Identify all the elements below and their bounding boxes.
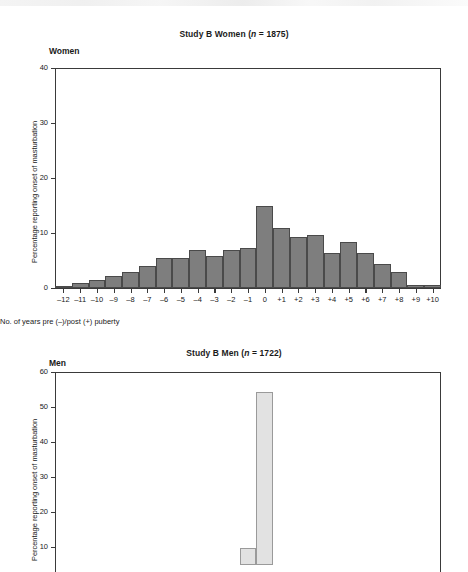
men-y-tick-label-40: 40 <box>27 437 48 446</box>
women-x-tick-label-22: +10 <box>422 295 444 304</box>
men-chart-title-main: Study B Men ( <box>186 348 244 358</box>
bar-women-20 <box>391 272 408 288</box>
women-x-tick-16 <box>332 289 333 293</box>
men-y-tick-50 <box>51 407 55 408</box>
bar-women-12 <box>256 206 273 288</box>
men-y-tick-label-30: 30 <box>27 472 48 481</box>
women-x-tick-19 <box>382 289 383 293</box>
women-chart-title-tail: = 1875) <box>256 29 288 39</box>
women-x-tick-0 <box>63 289 64 293</box>
women-y-tick-label-0: 0 <box>27 283 48 292</box>
men-y-tick-40 <box>51 442 55 443</box>
men-chart-title: Study B Men (n = 1722) <box>0 348 468 358</box>
women-x-tick-12 <box>265 289 266 293</box>
women-y-tick-40 <box>51 68 55 69</box>
bar-women-10 <box>223 250 240 288</box>
bar-women-14 <box>290 237 307 288</box>
men-y-tick-label-50: 50 <box>27 402 48 411</box>
bar-men-12 <box>256 392 273 565</box>
bar-women-6 <box>156 258 173 288</box>
men-plot-area <box>55 372 441 572</box>
bar-women-7 <box>172 258 189 288</box>
women-x-tick-9 <box>214 289 215 293</box>
bar-women-18 <box>357 253 374 288</box>
bar-men-11 <box>240 548 257 565</box>
women-y-axis-label: Percentage reporting onset of masturbati… <box>30 121 39 263</box>
bar-women-0 <box>55 286 72 288</box>
women-x-tick-11 <box>248 289 249 293</box>
men-y-tick-10 <box>51 547 55 548</box>
women-x-tick-8 <box>198 289 199 293</box>
bar-women-1 <box>72 283 89 289</box>
women-x-tick-14 <box>298 289 299 293</box>
women-x-tick-21 <box>416 289 417 293</box>
women-y-tick-10 <box>51 233 55 234</box>
bar-women-15 <box>307 235 324 288</box>
women-y-tick-label-30: 30 <box>27 118 48 127</box>
bar-women-19 <box>374 264 391 288</box>
women-x-tick-3 <box>114 289 115 293</box>
women-x-tick-10 <box>231 289 232 293</box>
bar-women-21 <box>407 285 424 288</box>
men-y-tick-30 <box>51 477 55 478</box>
bar-women-11 <box>240 248 257 288</box>
women-y-tick-20 <box>51 178 55 179</box>
women-x-tick-22 <box>433 289 434 293</box>
women-x-tick-5 <box>147 289 148 293</box>
women-x-tick-7 <box>181 289 182 293</box>
women-y-tick-0 <box>51 288 55 289</box>
women-x-tick-15 <box>315 289 316 293</box>
men-panel-tag: Men <box>49 358 66 368</box>
bar-women-4 <box>122 272 139 288</box>
women-x-tick-20 <box>399 289 400 293</box>
women-y-tick-30 <box>51 123 55 124</box>
women-x-tick-18 <box>365 289 366 293</box>
women-chart-title-main: Study B Women ( <box>179 29 251 39</box>
women-x-tick-2 <box>97 289 98 293</box>
bar-women-3 <box>105 276 122 288</box>
bar-women-8 <box>189 250 206 289</box>
women-y-tick-label-10: 10 <box>27 228 48 237</box>
bar-women-13 <box>273 228 290 289</box>
men-y-tick-label-20: 20 <box>27 507 48 516</box>
bar-women-9 <box>206 256 223 288</box>
bar-women-22 <box>424 285 441 288</box>
men-y-tick-60 <box>51 372 55 373</box>
women-x-tick-4 <box>131 289 132 293</box>
women-x-tick-6 <box>164 289 165 293</box>
women-y-tick-label-20: 20 <box>27 173 48 182</box>
scan-artifact-strip <box>0 0 468 6</box>
bar-women-17 <box>340 242 357 288</box>
women-chart-title: Study B Women (n = 1875) <box>0 29 468 39</box>
women-panel-tag: Women <box>49 46 80 56</box>
men-y-tick-label-60: 60 <box>27 367 48 376</box>
men-y-tick-label-10: 10 <box>27 542 48 551</box>
bar-women-5 <box>139 266 156 288</box>
women-x-tick-17 <box>349 289 350 293</box>
men-y-tick-20 <box>51 512 55 513</box>
women-x-tick-1 <box>80 289 81 293</box>
women-x-tick-13 <box>282 289 283 293</box>
men-chart-title-tail: = 1722) <box>250 348 282 358</box>
women-y-tick-label-40: 40 <box>27 63 48 72</box>
bar-women-2 <box>89 280 106 288</box>
bar-women-16 <box>324 253 341 288</box>
